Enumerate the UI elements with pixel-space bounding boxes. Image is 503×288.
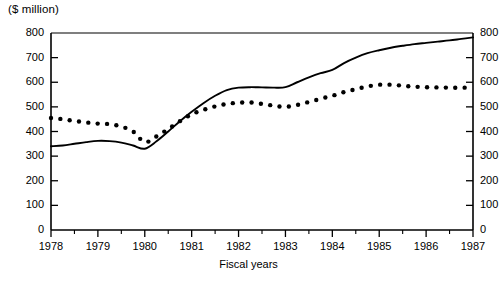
series-dot: [369, 84, 373, 88]
x-axis-tick-label: 1983: [262, 240, 308, 252]
y-axis-tick-label-right: 300: [480, 149, 503, 161]
series-dot: [296, 103, 300, 107]
series-group: [49, 37, 473, 148]
series-dot: [434, 85, 438, 89]
series-dot: [249, 100, 253, 104]
series-dot: [397, 83, 401, 87]
y-axis-tick-label-right: 600: [480, 75, 503, 87]
series-dot: [170, 124, 174, 128]
y-axis-tick-label-right: 800: [480, 26, 503, 38]
y-axis-tick-label-left: 0: [6, 223, 44, 235]
x-axis-tick-label: 1987: [450, 240, 496, 252]
axes-group: [51, 33, 473, 237]
x-axis-tick-label: 1985: [356, 240, 402, 252]
y-axis-tick-label-left: 200: [6, 174, 44, 186]
y-axis-tick-label-left: 300: [6, 149, 44, 161]
series-dot: [146, 139, 150, 143]
series-dot: [415, 85, 419, 89]
series-dot: [453, 85, 457, 89]
series-dot: [194, 110, 198, 114]
series-dot: [259, 102, 263, 106]
y-axis-tick-label-right: 500: [480, 100, 503, 112]
series-dot: [77, 119, 81, 123]
series-dot: [462, 85, 466, 89]
y-axis-tick-label-right: 0: [480, 223, 503, 235]
series-dot: [305, 100, 309, 104]
series-dot: [138, 137, 142, 141]
y-axis-tick-label-right: 700: [480, 51, 503, 63]
series-dot: [105, 122, 109, 126]
series-dot: [212, 104, 216, 108]
y-axis-tick-label-right: 100: [480, 198, 503, 210]
x-axis-tick-label: 1978: [28, 240, 74, 252]
y-axis-tick-label-right: 400: [480, 125, 503, 137]
series-dot: [231, 101, 235, 105]
series-dot: [350, 88, 354, 92]
series-dot: [268, 103, 272, 107]
series-dot: [58, 117, 62, 121]
y-axis-tick-label-left: 100: [6, 198, 44, 210]
x-axis-tick-label: 1981: [169, 240, 215, 252]
series-dot: [203, 107, 207, 111]
series-dot: [359, 86, 363, 90]
series-dot: [444, 85, 448, 89]
series-dot: [95, 121, 99, 125]
x-axis-title: Fiscal years: [0, 258, 497, 270]
series-dot: [378, 82, 382, 86]
series-dot: [162, 129, 166, 133]
y-axis-tick-label-left: 400: [6, 125, 44, 137]
y-axis-tick-label-left: 800: [6, 26, 44, 38]
series-dot: [425, 85, 429, 89]
series-dot: [67, 118, 71, 122]
series-dot: [341, 90, 345, 94]
series-dot: [154, 134, 158, 138]
x-axis-tick-label: 1979: [75, 240, 121, 252]
series-dot: [86, 120, 90, 124]
y-axis-tick-label-right: 200: [480, 174, 503, 186]
series-dot: [178, 119, 182, 123]
series-dot: [277, 104, 281, 108]
y-axis-tick-label-left: 500: [6, 100, 44, 112]
series-dot: [123, 126, 127, 130]
series-dot: [323, 95, 327, 99]
x-axis-tick-label: 1986: [403, 240, 449, 252]
series-dot: [406, 84, 410, 88]
series-path-dotted: [51, 85, 473, 143]
series-dot: [132, 130, 136, 134]
series-dot: [287, 104, 291, 108]
series-dot: [49, 116, 53, 120]
y-axis-tick-label-left: 600: [6, 75, 44, 87]
x-axis-tick-label: 1980: [122, 240, 168, 252]
series-dot: [314, 98, 318, 102]
x-axis-tick-label: 1982: [216, 240, 262, 252]
series-dot: [186, 114, 190, 118]
y-axis-tick-label-left: 700: [6, 51, 44, 63]
series-dot: [221, 102, 225, 106]
series-dot: [240, 100, 244, 104]
series-dot: [332, 93, 336, 97]
series-dot: [114, 123, 118, 127]
series-dot: [387, 82, 391, 86]
x-axis-tick-label: 1984: [309, 240, 355, 252]
series-line-solid: [51, 37, 473, 148]
